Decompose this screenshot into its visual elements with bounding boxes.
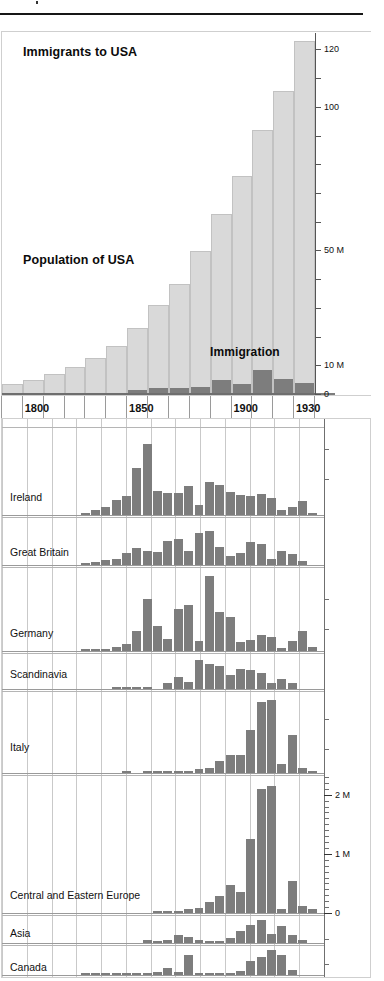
y-axis-tick-label: 120 <box>324 45 339 54</box>
country-bar <box>246 670 255 689</box>
country-bar <box>277 679 286 689</box>
x-axis-tick-label: 1850 <box>129 402 153 414</box>
country-bar <box>132 631 141 651</box>
panel-separator <box>2 427 324 428</box>
panel-separator <box>2 915 324 916</box>
y-axis-minor-tick <box>324 629 329 630</box>
population-plot-area <box>2 32 315 395</box>
y-axis-tick <box>324 866 329 867</box>
country-bar <box>226 492 235 515</box>
y-axis-minor-tick <box>324 449 329 450</box>
y-axis-tick <box>324 883 329 884</box>
page-dot-mark <box>36 1 38 4</box>
panel-baseline <box>2 913 324 914</box>
y-axis-tick <box>324 836 329 837</box>
panel-separator <box>2 567 324 568</box>
y-axis-tick <box>324 830 329 831</box>
panel-separator <box>2 691 324 692</box>
country-bar <box>143 687 152 689</box>
y-axis-tick <box>324 901 329 902</box>
country-bar <box>308 513 317 515</box>
country-bar <box>308 909 317 913</box>
y-axis-spine <box>315 33 316 395</box>
x-axis-tick-label: 1900 <box>233 402 257 414</box>
y-axis-tick <box>324 872 329 873</box>
country-bar <box>195 641 204 651</box>
y-axis-tick-label: 10 M <box>324 361 344 370</box>
country-bar <box>132 548 141 565</box>
country-bar <box>112 500 121 515</box>
country-bar <box>236 553 245 565</box>
x-axis-tick <box>231 396 232 418</box>
y-axis-tick <box>324 801 329 802</box>
country-bar <box>153 626 162 651</box>
country-bar <box>174 771 183 773</box>
country-bar <box>174 609 183 651</box>
y-axis-tick <box>315 365 321 366</box>
y-axis-tick <box>324 777 329 778</box>
panel-baseline <box>2 689 324 690</box>
country-bar <box>277 926 286 943</box>
x-axis-tick <box>84 396 85 418</box>
y-axis-tick <box>324 824 329 825</box>
panel-baseline <box>2 651 324 652</box>
country-bar <box>153 972 162 975</box>
country-bar <box>184 551 193 565</box>
y-axis-tick <box>324 913 332 914</box>
y-axis-tick <box>324 789 329 790</box>
panel-baseline <box>2 975 324 976</box>
y-axis-tick-label: 100 <box>324 103 339 112</box>
country-bar <box>246 839 255 913</box>
country-bar <box>267 498 276 515</box>
country-bar <box>101 649 110 651</box>
label-population-of-usa: Population of USA <box>23 253 134 267</box>
country-bar <box>236 931 245 943</box>
population-baseline <box>2 393 315 395</box>
panel-separator <box>2 653 324 654</box>
country-bar <box>226 675 235 689</box>
y-axis-tick <box>315 394 321 395</box>
country-bar <box>246 496 255 515</box>
country-bar <box>277 955 286 975</box>
country-bar <box>288 554 297 565</box>
country-bar <box>226 755 235 773</box>
y-axis-minor-tick <box>324 939 329 940</box>
y-axis-tick <box>324 818 329 819</box>
country-bar <box>246 640 255 651</box>
label-immigration: Immigration <box>210 345 280 359</box>
country-bar <box>267 637 276 651</box>
country-bar <box>298 501 307 515</box>
country-bar <box>143 444 152 515</box>
y-axis-tick <box>324 854 332 855</box>
country-bar <box>288 735 297 773</box>
y-axis-minor-tick <box>324 964 329 965</box>
y-axis-minor-tick <box>324 749 329 750</box>
panel-label-germany: Germany <box>10 627 53 639</box>
country-bar <box>163 940 172 943</box>
country-bar <box>143 973 152 975</box>
country-bar <box>184 486 193 515</box>
country-bar <box>215 973 224 975</box>
country-bar <box>205 768 214 773</box>
country-bar <box>122 687 131 689</box>
y-axis-tick <box>315 250 321 251</box>
y-axis-tick <box>324 889 329 890</box>
country-bar <box>205 664 214 689</box>
country-bar <box>163 541 172 565</box>
x-axis-tick <box>22 396 23 418</box>
x-axis-tick <box>64 396 65 418</box>
x-axis-tick-label: 1930 <box>296 402 320 414</box>
country-bar <box>174 539 183 565</box>
country-bar <box>112 647 121 651</box>
country-bar <box>246 730 255 773</box>
country-bar <box>226 885 235 913</box>
country-bar <box>205 941 214 943</box>
population-column <box>106 346 127 395</box>
country-bar <box>257 635 266 651</box>
country-bar <box>257 494 266 515</box>
population-column <box>65 367 86 395</box>
country-bar <box>153 552 162 565</box>
country-bar <box>163 683 172 689</box>
country-bar <box>153 911 162 913</box>
population-column <box>85 358 106 395</box>
